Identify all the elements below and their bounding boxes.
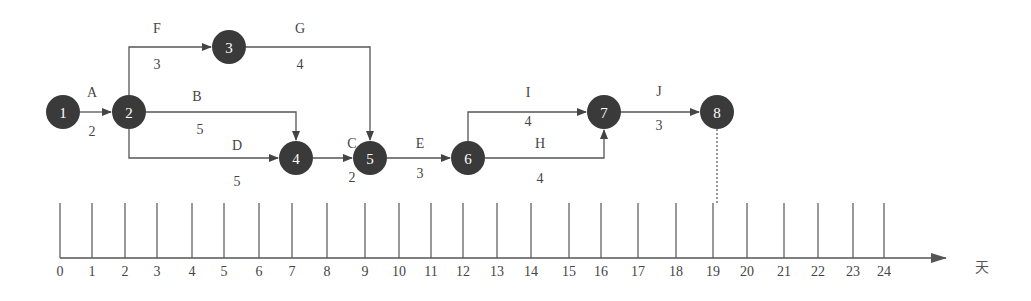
duration-B: 5	[197, 122, 204, 137]
svg-text:5: 5	[366, 151, 374, 167]
edge-F	[129, 47, 211, 95]
svg-text:4: 4	[292, 151, 300, 167]
node-1: 1	[46, 95, 80, 129]
tick-label-21: 21	[777, 264, 791, 279]
time-unit-label: 天	[975, 259, 989, 275]
duration-F: 3	[154, 57, 161, 72]
svg-text:8: 8	[713, 105, 721, 121]
label-I: I	[526, 85, 531, 100]
network-diagram: A 2 F 3 G 4 B 5 D 5 C 2 E 3 I 4 H 4 J 3 …	[0, 0, 1031, 301]
edges	[80, 47, 717, 203]
tick-label-10: 10	[392, 264, 406, 279]
node-8: 8	[700, 95, 734, 129]
tick-label-11: 11	[424, 264, 437, 279]
tick-label-23: 23	[846, 264, 860, 279]
tick-label-2: 2	[122, 264, 129, 279]
time-ticks: 0123456789101112131415161718192021222324	[57, 203, 892, 279]
tick-label-14: 14	[524, 264, 538, 279]
tick-label-4: 4	[189, 264, 196, 279]
svg-text:1: 1	[59, 105, 67, 121]
tick-label-19: 19	[706, 264, 720, 279]
label-G: G	[295, 21, 305, 36]
node-3: 3	[212, 30, 246, 64]
svg-text:6: 6	[464, 151, 472, 167]
label-D: D	[232, 138, 242, 153]
duration-H: 4	[537, 171, 544, 186]
duration-J: 3	[656, 118, 663, 133]
tick-label-6: 6	[256, 264, 263, 279]
label-H: H	[535, 136, 545, 151]
duration-D: 5	[234, 174, 241, 189]
tick-label-17: 17	[631, 264, 645, 279]
tick-label-24: 24	[877, 264, 891, 279]
tick-label-18: 18	[669, 264, 683, 279]
tick-label-12: 12	[456, 264, 470, 279]
tick-label-15: 15	[562, 264, 576, 279]
label-A: A	[87, 85, 98, 100]
tick-label-7: 7	[289, 264, 296, 279]
timeline: 0123456789101112131415161718192021222324…	[57, 203, 990, 279]
node-2: 2	[112, 95, 146, 129]
edge-G	[246, 47, 370, 140]
tick-label-9: 9	[362, 264, 369, 279]
duration-A: 2	[89, 124, 96, 139]
duration-I: 4	[525, 114, 532, 129]
label-B: B	[192, 89, 201, 104]
tick-label-0: 0	[57, 264, 64, 279]
label-E: E	[416, 136, 425, 151]
tick-label-8: 8	[324, 264, 331, 279]
tick-label-22: 22	[811, 264, 825, 279]
edge-D	[129, 129, 278, 158]
tick-label-16: 16	[594, 264, 608, 279]
svg-text:2: 2	[125, 105, 133, 121]
duration-G: 4	[297, 57, 304, 72]
tick-label-1: 1	[89, 264, 96, 279]
node-7: 7	[587, 95, 621, 129]
label-F: F	[153, 21, 161, 36]
svg-text:7: 7	[600, 105, 608, 121]
node-6: 6	[451, 141, 485, 175]
duration-E: 3	[417, 166, 424, 181]
nodes: 1 2 3 4 5 6 7 8	[46, 30, 734, 175]
label-C: C	[347, 136, 356, 151]
tick-label-3: 3	[154, 264, 161, 279]
node-5: 5	[353, 141, 387, 175]
tick-label-5: 5	[221, 264, 228, 279]
duration-C: 2	[349, 170, 356, 185]
node-4: 4	[279, 141, 313, 175]
svg-text:3: 3	[225, 40, 233, 56]
label-J: J	[656, 84, 662, 99]
tick-label-13: 13	[490, 264, 504, 279]
tick-label-20: 20	[740, 264, 754, 279]
edge-B	[146, 112, 296, 140]
